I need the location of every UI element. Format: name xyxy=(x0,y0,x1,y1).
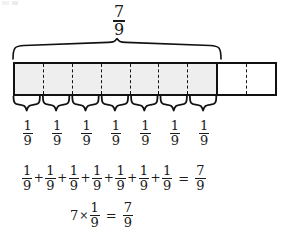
fraction-numerator: 1 xyxy=(140,119,150,132)
bar-cell-shaded-3 xyxy=(73,64,102,94)
fraction-denominator: 9 xyxy=(69,179,79,192)
bar-cell-empty-8 xyxy=(218,64,247,94)
fraction-one-ninth: 1 9 xyxy=(199,119,209,148)
bar-cell-shaded-6 xyxy=(159,64,188,94)
plus-operator-3: + xyxy=(79,172,92,184)
term-fraction-3: 1 9 xyxy=(69,164,79,193)
fraction-numerator: 1 xyxy=(92,164,102,177)
fraction-numerator: 1 xyxy=(162,164,172,177)
sum-result-fraction: 7 9 xyxy=(195,164,205,193)
fraction-denominator: 9 xyxy=(140,134,150,147)
term-fraction-4: 1 9 xyxy=(92,164,102,193)
fraction-denominator: 9 xyxy=(22,179,32,192)
bar-cell-shaded-7 xyxy=(188,64,218,94)
fraction-denominator: 9 xyxy=(139,179,149,192)
fraction-one-ninth: 1 9 xyxy=(81,119,91,148)
fraction-one-ninth: 1 9 xyxy=(170,119,180,148)
fraction-numerator: 1 xyxy=(199,119,209,132)
plus-operator-4: + xyxy=(102,172,115,184)
fraction-one-ninth: 1 9 xyxy=(140,119,150,148)
bar-cell-shaded-5 xyxy=(131,64,160,94)
top-brace xyxy=(12,38,222,60)
equals-operator: = xyxy=(100,209,123,222)
fraction-one-ninth: 1 9 xyxy=(52,119,62,148)
fraction-denominator: 9 xyxy=(45,179,55,192)
fraction-denominator: 9 xyxy=(92,179,102,192)
fraction-numerator: 1 xyxy=(69,164,79,177)
fraction-numerator: 1 xyxy=(111,119,121,132)
equals-operator: = xyxy=(172,172,195,185)
equation-repeated-addition: 1 9 + 1 9 + 1 9 + 1 9 + 1 9 + 1 xyxy=(22,161,267,195)
unit-fraction-labels: 1 9 1 9 1 9 1 9 xyxy=(13,119,219,151)
plus-operator-1: + xyxy=(32,172,45,184)
fraction-one-ninth: 1 9 xyxy=(23,119,33,148)
total-fraction-label: 7 9 xyxy=(104,3,134,39)
fraction-numerator: 1 xyxy=(170,119,180,132)
term-fraction-1: 1 9 xyxy=(22,164,32,193)
multiplier-value: 7 xyxy=(70,209,78,222)
term-fraction-6: 1 9 xyxy=(139,164,149,193)
unit-label-4: 1 9 xyxy=(101,119,130,151)
fraction-denominator: 9 xyxy=(123,216,133,229)
bar-cell-shaded-1 xyxy=(15,64,44,94)
fraction-numerator: 1 xyxy=(90,201,100,214)
fraction-denominator: 9 xyxy=(115,179,125,192)
factor-fraction: 1 9 xyxy=(90,201,100,230)
product-result-fraction: 7 9 xyxy=(123,201,133,230)
unit-label-2: 1 9 xyxy=(42,119,71,151)
unit-braces-group xyxy=(12,96,224,118)
plus-operator-6: + xyxy=(149,172,162,184)
fraction-numerator: 1 xyxy=(115,164,125,177)
fraction-denominator: 9 xyxy=(162,179,172,192)
fraction-numerator: 1 xyxy=(52,119,62,132)
fraction-numerator: 1 xyxy=(23,119,33,132)
fraction-denominator: 9 xyxy=(111,134,121,147)
fraction-denominator: 9 xyxy=(113,22,125,38)
fraction-seven-ninths: 7 9 xyxy=(113,4,125,39)
term-fraction-5: 1 9 xyxy=(115,164,125,193)
scan-artifact xyxy=(2,1,24,5)
unit-label-5: 1 9 xyxy=(131,119,160,151)
fraction-denominator: 9 xyxy=(199,134,209,147)
fraction-bar-model-figure: 7 9 1 xyxy=(0,0,285,237)
plus-operator-2: + xyxy=(56,172,69,184)
unit-label-7: 1 9 xyxy=(190,119,219,151)
fraction-numerator: 1 xyxy=(22,164,32,177)
fraction-numerator: 7 xyxy=(113,4,125,20)
fraction-numerator: 7 xyxy=(195,164,205,177)
fraction-denominator: 9 xyxy=(195,179,205,192)
fraction-numerator: 1 xyxy=(45,164,55,177)
fraction-denominator: 9 xyxy=(23,134,33,147)
fraction-numerator: 1 xyxy=(81,119,91,132)
bar-cell-shaded-4 xyxy=(102,64,131,94)
term-fraction-7: 1 9 xyxy=(162,164,172,193)
fraction-numerator: 1 xyxy=(139,164,149,177)
fraction-denominator: 9 xyxy=(52,134,62,147)
fraction-numerator: 7 xyxy=(123,201,133,214)
times-operator: × xyxy=(78,210,89,221)
fraction-denominator: 9 xyxy=(81,134,91,147)
bar-cell-empty-9 xyxy=(247,64,275,94)
unit-label-6: 1 9 xyxy=(160,119,189,151)
fraction-denominator: 9 xyxy=(170,134,180,147)
unit-label-3: 1 9 xyxy=(72,119,101,151)
plus-operator-5: + xyxy=(126,172,139,184)
unit-label-1: 1 9 xyxy=(13,119,42,151)
bar-cell-shaded-2 xyxy=(44,64,73,94)
term-fraction-2: 1 9 xyxy=(45,164,55,193)
fraction-denominator: 9 xyxy=(90,216,100,229)
bar-model xyxy=(13,62,277,96)
fraction-one-ninth: 1 9 xyxy=(111,119,121,148)
equation-multiplication: 7 × 1 9 = 7 9 xyxy=(70,198,230,232)
